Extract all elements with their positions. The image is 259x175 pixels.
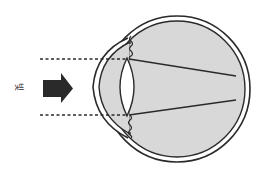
arrow-right-icon <box>43 73 73 103</box>
eye-diagram <box>0 0 259 175</box>
eyeball <box>93 16 250 162</box>
